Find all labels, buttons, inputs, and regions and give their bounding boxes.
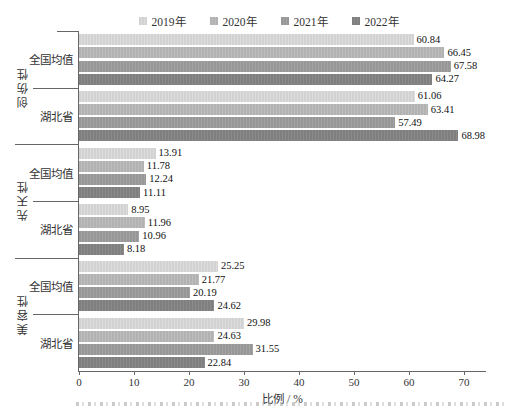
- bar-2022年: 24.62: [79, 300, 214, 311]
- bar-2021年: 57.49: [79, 117, 395, 128]
- category-band: 全国均值25.2521.7720.1924.62: [79, 258, 486, 315]
- bar-value-label: 22.84: [208, 357, 232, 369]
- bar-value-label: 68.98: [461, 130, 485, 142]
- bar-2019年: 8.95: [79, 204, 128, 215]
- cropped-caption-fragment: [76, 402, 507, 406]
- bar-2019年: 25.25: [79, 261, 218, 272]
- bar-value-label: 8.18: [127, 243, 145, 255]
- bar-value-label: 13.91: [159, 147, 183, 159]
- legend-item: 2021年: [281, 13, 328, 29]
- x-axis-tick-label: 60: [404, 376, 415, 388]
- x-axis-tick-label: 50: [349, 376, 360, 388]
- category-band: 湖北省61.0663.4157.4968.98: [79, 88, 486, 145]
- x-axis-tick-label: 30: [239, 376, 250, 388]
- bar-2021年: 67.58: [79, 61, 451, 72]
- bar-value-label: 24.62: [217, 300, 241, 312]
- bar-value-label: 25.25: [221, 260, 245, 272]
- legend-label: 2021年: [294, 13, 328, 29]
- bar-value-label: 11.96: [148, 217, 171, 229]
- bar-value-label: 66.45: [447, 47, 471, 59]
- bar-chart-figure: 2019年2020年2021年2022年 全国均值60.8466.4567.58…: [0, 0, 509, 409]
- category-band: 湖北省8.9511.9610.968.18: [79, 201, 486, 258]
- bar-2022年: 8.18: [79, 244, 124, 255]
- bar-value-label: 11.78: [147, 160, 170, 172]
- bar-value-label: 10.96: [142, 230, 166, 242]
- bar-value-label: 31.55: [256, 343, 280, 355]
- group-label: 美容性: [15, 258, 31, 371]
- legend-swatch-icon: [352, 17, 360, 25]
- bar-2019年: 61.06: [79, 91, 415, 102]
- legend-label: 2022年: [365, 13, 399, 29]
- bar-2020年: 11.78: [79, 161, 144, 172]
- bar-value-label: 21.77: [202, 274, 226, 286]
- bar-value-label: 67.58: [454, 60, 478, 72]
- bar-value-label: 8.95: [131, 204, 149, 216]
- plot-area: 全国均值60.8466.4567.5864.27湖北省61.0663.4157.…: [78, 31, 486, 372]
- bar-2020年: 24.63: [79, 331, 214, 342]
- group-label: 创伤性: [15, 31, 31, 144]
- bar-value-label: 63.41: [431, 104, 455, 116]
- x-axis-tick: [409, 371, 410, 375]
- bar-2020年: 66.45: [79, 47, 444, 58]
- legend-swatch-icon: [210, 17, 218, 25]
- x-axis-tick: [354, 371, 355, 375]
- legend-swatch-icon: [139, 17, 147, 25]
- legend-label: 2020年: [223, 13, 257, 29]
- x-axis-tick: [79, 371, 80, 375]
- bar-value-label: 60.84: [417, 34, 441, 46]
- bar-2021年: 31.55: [79, 344, 253, 355]
- bar-2019年: 29.98: [79, 318, 244, 329]
- bar-value-label: 20.19: [193, 287, 217, 299]
- bar-2022年: 22.84: [79, 357, 205, 368]
- x-axis-tick-label: 70: [459, 376, 470, 388]
- bar-2021年: 12.24: [79, 174, 146, 185]
- bar-2019年: 60.84: [79, 34, 414, 45]
- bar-2022年: 68.98: [79, 130, 458, 141]
- bar-value-label: 29.98: [247, 317, 271, 329]
- x-axis-tick-label: 0: [76, 376, 82, 388]
- x-axis-tick: [189, 371, 190, 375]
- x-axis-tick-label: 20: [184, 376, 195, 388]
- x-axis-tick: [464, 371, 465, 375]
- bar-value-label: 24.63: [217, 330, 241, 342]
- group-label: 先天性: [15, 144, 31, 257]
- bar-2020年: 63.41: [79, 104, 428, 115]
- bar-value-label: 57.49: [398, 117, 422, 129]
- bar-2021年: 10.96: [79, 231, 139, 242]
- bar-2022年: 11.11: [79, 187, 140, 198]
- x-axis-tick-label: 10: [129, 376, 140, 388]
- bar-value-label: 12.24: [149, 173, 173, 185]
- x-axis-tick-label: 40: [294, 376, 305, 388]
- chart-legend: 2019年2020年2021年2022年: [28, 13, 509, 29]
- x-axis-tick: [134, 371, 135, 375]
- category-band: 全国均值13.9111.7812.2411.11: [79, 144, 486, 201]
- legend-item: 2019年: [139, 13, 186, 29]
- bar-2022年: 64.27: [79, 74, 432, 85]
- legend-swatch-icon: [281, 17, 289, 25]
- legend-label: 2019年: [152, 13, 186, 29]
- legend-item: 2022年: [352, 13, 399, 29]
- x-axis-tick: [244, 371, 245, 375]
- legend-item: 2020年: [210, 13, 257, 29]
- category-band: 全国均值60.8466.4567.5864.27: [79, 31, 486, 88]
- bar-value-label: 64.27: [435, 73, 459, 85]
- bar-2020年: 21.77: [79, 274, 199, 285]
- bar-2019年: 13.91: [79, 148, 156, 159]
- x-axis-tick: [299, 371, 300, 375]
- category-band: 湖北省29.9824.6331.5522.84: [79, 314, 486, 371]
- bar-value-label: 61.06: [418, 90, 442, 102]
- bar-2020年: 11.96: [79, 217, 145, 228]
- bar-2021年: 20.19: [79, 287, 190, 298]
- bar-value-label: 11.11: [143, 187, 166, 199]
